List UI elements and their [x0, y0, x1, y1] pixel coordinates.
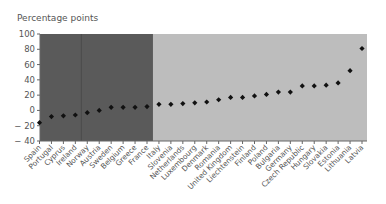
- y-tick-label: 40: [24, 75, 35, 85]
- shaded-regions: [40, 34, 367, 141]
- y-tick-label: 100: [19, 29, 35, 39]
- y-tick-label: 0: [30, 105, 35, 115]
- y-tick-label: − 40: [14, 136, 35, 146]
- y-tick-label: 80: [24, 44, 35, 54]
- y-axis: 100806040200− 20− 40: [14, 29, 40, 146]
- y-tick-label: − 20: [14, 121, 35, 131]
- y-tick-label: 20: [24, 90, 35, 100]
- x-axis: SpainPortugalCyprusIrelandNorwayAustriaS…: [22, 141, 367, 191]
- light-shaded-region: [153, 34, 367, 141]
- scatter-chart: 100806040200− 20− 40 SpainPortugalCyprus…: [0, 0, 386, 204]
- dark-shaded-region: [40, 34, 153, 141]
- y-tick-label: 60: [24, 60, 35, 70]
